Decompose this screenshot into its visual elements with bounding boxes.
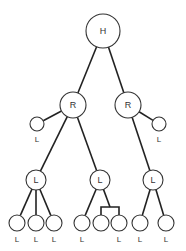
edge-l3-b7	[142, 190, 150, 216]
tree-node-r1: R	[60, 92, 86, 118]
tree-node-b1: L	[9, 215, 25, 244]
node-circle	[93, 215, 109, 231]
node-label: L	[117, 235, 122, 244]
tree-node-l_r2: L	[152, 117, 166, 144]
tree-node-b8: L	[158, 215, 174, 244]
tree-node-l1: L	[26, 170, 46, 190]
edge-l1-b1	[20, 189, 32, 216]
tree-node-b3: L	[46, 215, 62, 244]
node-label: L	[33, 175, 38, 185]
edge-l2-b4	[85, 189, 96, 215]
node-label: L	[157, 135, 162, 144]
tree-node-l_r1: L	[30, 117, 44, 144]
node-circle	[9, 215, 25, 231]
tree-diagram: HRRLLLLLLLLLLLL	[0, 0, 186, 251]
edge-r1-l2	[77, 117, 96, 170]
tree-edges	[20, 47, 163, 216]
edge-h-r2	[108, 47, 123, 93]
node-label: L	[52, 235, 57, 244]
tree-node-l2: L	[90, 170, 110, 190]
tree-node-b5	[93, 215, 109, 231]
node-circle	[152, 117, 166, 131]
edge-r1-l_r1	[43, 111, 61, 121]
node-label: L	[97, 175, 102, 185]
tree-node-b6: L	[111, 215, 127, 244]
node-circle	[111, 215, 127, 231]
node-circle	[158, 215, 174, 231]
node-label: R	[125, 100, 132, 110]
node-label: L	[150, 175, 155, 185]
edge-r2-l_r2	[139, 112, 153, 121]
node-circle	[28, 215, 44, 231]
bracket-connector	[101, 189, 119, 215]
node-label: L	[15, 235, 20, 244]
node-label: L	[34, 235, 39, 244]
node-circle	[74, 215, 90, 231]
edge-l3-b8	[156, 190, 164, 216]
node-label: L	[164, 235, 169, 244]
bracket-stem	[103, 189, 110, 207]
tree-node-h: H	[86, 14, 120, 48]
node-label: L	[35, 135, 40, 144]
node-label: R	[70, 100, 77, 110]
node-circle	[30, 117, 44, 131]
tree-node-l3: L	[143, 170, 163, 190]
node-circle	[46, 215, 62, 231]
tree-node-b7: L	[132, 215, 148, 244]
tree-node-b4: L	[74, 215, 90, 244]
node-label: L	[138, 235, 143, 244]
bracket-bar	[101, 207, 119, 215]
edge-r2-l3	[132, 117, 150, 170]
node-label: L	[80, 235, 85, 244]
tree-node-b2: L	[28, 215, 44, 244]
tree-node-r2: R	[115, 92, 141, 118]
edge-l1-b3	[40, 189, 51, 215]
tree-nodes: HRRLLLLLLLLLLLL	[9, 14, 174, 244]
node-label: H	[100, 26, 107, 36]
node-circle	[132, 215, 148, 231]
edge-h-r1	[78, 47, 97, 93]
